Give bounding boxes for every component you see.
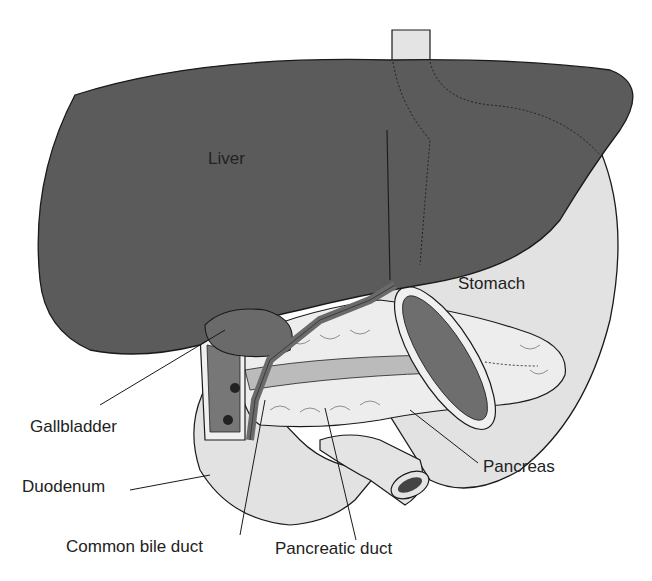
duodenum-leader	[130, 475, 210, 490]
label-common-bile-duct: Common bile duct	[66, 538, 203, 555]
label-liver: Liver	[208, 150, 245, 167]
label-stomach: Stomach	[458, 275, 525, 292]
label-gallbladder: Gallbladder	[30, 418, 117, 435]
label-duodenum: Duodenum	[22, 478, 105, 495]
label-pancreas: Pancreas	[483, 458, 555, 475]
label-pancreatic-duct: Pancreatic duct	[275, 540, 392, 557]
